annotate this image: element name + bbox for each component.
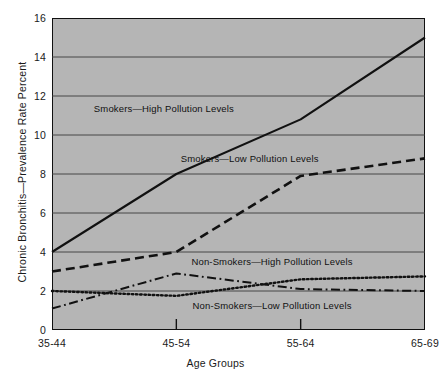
- series-label: Non-Smokers—Low Pollution Levels: [193, 300, 352, 311]
- x-tick-label: 65-69: [411, 337, 439, 349]
- x-tick-label: 55-64: [287, 337, 315, 349]
- x-tick-label: 35-44: [38, 337, 66, 349]
- series-label: Smokers—High Pollution Levels: [94, 103, 234, 114]
- y-axis-title: Chronic Bronchitis—Prevalence Rate Perce…: [16, 42, 28, 302]
- y-tick-label: 0: [16, 324, 46, 336]
- series-label: Smokers—Low Pollution Levels: [181, 153, 319, 164]
- y-tick-label: 16: [16, 12, 46, 24]
- x-axis-title: Age Groups: [0, 357, 431, 369]
- plot-area: [52, 18, 425, 330]
- series-label: Non-Smokers—High Pollution Levels: [191, 256, 352, 267]
- x-tick-label: 45-54: [162, 337, 190, 349]
